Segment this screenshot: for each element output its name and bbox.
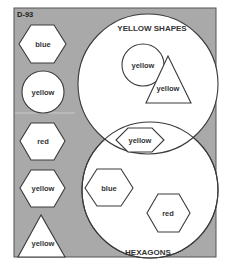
item-label: yellow bbox=[132, 61, 155, 70]
yellow-shapes-label: YELLOW SHAPES bbox=[117, 24, 187, 33]
item-label: yellow bbox=[32, 88, 55, 97]
item-label: yellow bbox=[129, 136, 152, 145]
unsorted-item-yellow-circle[interactable]: yellow bbox=[22, 71, 64, 113]
item-label: blue bbox=[35, 40, 50, 49]
panel-code: D-93 bbox=[17, 10, 33, 19]
venn-diagram-figure: D-93 YELLOW SHAPES HEXAGONS yellow yello… bbox=[0, 0, 228, 276]
item-label: yellow bbox=[32, 184, 55, 193]
item-label: yellow bbox=[32, 239, 55, 248]
item-label: yellow bbox=[157, 84, 180, 93]
hexagons-label: HEXAGONS bbox=[125, 248, 171, 257]
item-label: blue bbox=[101, 184, 116, 193]
item-label: red bbox=[37, 137, 49, 146]
item-label: red bbox=[162, 209, 174, 218]
